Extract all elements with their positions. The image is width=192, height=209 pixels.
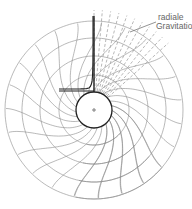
grid-spoke (107, 96, 181, 124)
label-gravitation: Gravitation (156, 22, 192, 31)
grid-spoke (52, 126, 102, 187)
grid-spoke (20, 63, 78, 117)
annotation-pointer-line (130, 22, 156, 32)
grid-spoke (112, 111, 143, 183)
grid-spoke (35, 45, 76, 112)
grid-spoke (10, 85, 80, 122)
center-point (93, 109, 95, 111)
grid-spoke (55, 31, 76, 107)
grid-spoke (74, 124, 107, 196)
grid-spoke (111, 115, 123, 193)
gravitation-diagram (0, 0, 192, 209)
grid-spoke (103, 89, 182, 100)
grid-spoke (6, 109, 83, 128)
potential-curve (59, 16, 93, 89)
grid-spoke (75, 124, 107, 196)
grid-spoke (99, 120, 114, 198)
grid-spoke (9, 127, 88, 136)
